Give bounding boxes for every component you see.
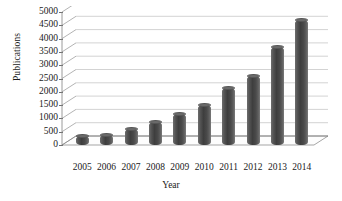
bar bbox=[247, 76, 260, 145]
y-axis-tick-labels: 0500100015002000250030003500400045005000 bbox=[16, 0, 58, 160]
x-axis-tick-labels: 2005200620072008200920102011201220132014 bbox=[0, 163, 342, 177]
bar-top-ellipse bbox=[173, 112, 186, 116]
y-axis-tick-label: 0 bbox=[16, 140, 58, 150]
bar-top-ellipse bbox=[247, 74, 260, 78]
bar-top-ellipse bbox=[125, 127, 138, 131]
y-axis-tick-label: 1000 bbox=[16, 113, 58, 123]
x-axis-tick-label: 2014 bbox=[285, 163, 319, 173]
bar bbox=[76, 136, 89, 145]
bar-top-ellipse bbox=[76, 134, 89, 138]
x-axis-title: Year bbox=[0, 180, 342, 190]
bar-top-ellipse bbox=[271, 45, 284, 49]
y-axis-tick-label: 500 bbox=[16, 127, 58, 137]
bar bbox=[271, 47, 284, 145]
bar bbox=[173, 114, 186, 145]
bar bbox=[125, 129, 138, 145]
publications-by-year-bar-chart: Publications 050010001500200025003000350… bbox=[0, 0, 342, 201]
y-axis-tick-label: 3000 bbox=[16, 60, 58, 70]
y-axis-tick-label: 4000 bbox=[16, 34, 58, 44]
y-axis-tick-label: 3500 bbox=[16, 47, 58, 57]
y-axis-tick-label: 4500 bbox=[16, 20, 58, 30]
bar-top-ellipse bbox=[222, 86, 235, 90]
bar bbox=[149, 122, 162, 145]
bar-top-ellipse bbox=[198, 103, 211, 107]
bar-top-ellipse bbox=[295, 18, 308, 22]
bar bbox=[198, 105, 211, 145]
bars-layer bbox=[60, 6, 332, 161]
bar-top-ellipse bbox=[100, 133, 113, 137]
bar bbox=[295, 20, 308, 145]
plot-area bbox=[60, 6, 332, 161]
bar bbox=[222, 88, 235, 145]
bar bbox=[100, 135, 113, 145]
y-axis-tick-label: 5000 bbox=[16, 7, 58, 17]
y-axis-tick-label: 2000 bbox=[16, 87, 58, 97]
y-axis-tick-label: 2500 bbox=[16, 74, 58, 84]
bar-top-ellipse bbox=[149, 120, 162, 124]
y-axis-tick-label: 1500 bbox=[16, 100, 58, 110]
